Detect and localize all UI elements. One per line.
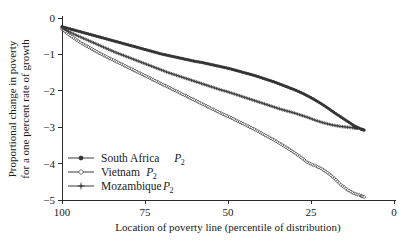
x-axis-title: Location of poverty line (percentile of … [115,221,341,234]
x-tick-label: 0 [391,206,397,218]
y-tick-label: −5 [43,194,55,206]
legend-label-1: Vietnam [101,166,140,178]
legend-subscript-0: 2 [181,158,185,167]
x-tick-label: 100 [54,206,71,218]
series-2 [60,26,359,130]
chart-figure: 0−1−2−3−4−51007550250Location of poverty… [0,0,410,246]
poverty-growth-elasticity-chart: 0−1−2−3−4−51007550250Location of poverty… [0,0,410,246]
y-tick-label: −3 [43,121,55,133]
x-tick-label: 75 [140,206,152,218]
x-tick-label: 50 [223,206,235,218]
legend-label-0: South Africa [101,152,159,164]
y-axis-title-line2: for a one percent rate of growth [19,39,31,179]
y-axis-title-line1: Proportional change in poverty [6,40,18,177]
legend-subscript-2: 2 [170,186,174,195]
chart-legend: South Africa P2Vietnam P2Mozambique P2 [68,152,185,195]
legend-marker-1 [78,169,83,174]
y-tick-label: 0 [50,12,56,24]
legend-marker-0 [79,156,83,160]
y-tick-label: −2 [43,85,55,97]
data-point [363,129,365,131]
y-tick-label: −4 [43,158,55,170]
y-tick-label: −1 [43,48,55,60]
legend-label-2: Mozambique [101,180,162,193]
series-0 [61,26,365,132]
x-tick-label: 25 [306,206,318,218]
